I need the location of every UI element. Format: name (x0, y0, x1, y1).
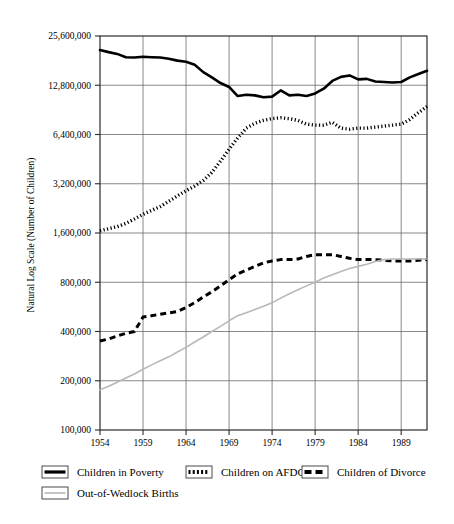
series-line-3 (100, 259, 427, 390)
legend-item: Children of Divorce (302, 466, 426, 478)
line-chart: Natural Log Scale (Number of Children) 2… (0, 0, 454, 524)
series-line-2 (100, 255, 427, 341)
x-tick-label: 1984 (349, 438, 368, 448)
chart-legend: Children in PovertyChildren on AFDCChild… (42, 466, 426, 499)
x-tick-label: 1979 (306, 438, 325, 448)
x-tick-label: 1989 (392, 438, 411, 448)
legend-label: Children of Divorce (337, 466, 426, 478)
y-tick-label: 25,600,000 (48, 31, 91, 41)
y-tick-labels: 25,600,00012,800,0006,400,0003,200,0001,… (48, 31, 100, 435)
legend-item: Out-of-Wedlock Births (42, 487, 178, 499)
chart-figure: Natural Log Scale (Number of Children) 2… (0, 0, 454, 524)
y-tick-label: 100,000 (60, 425, 91, 435)
y-tick-label: 400,000 (60, 327, 91, 337)
y-tick-label: 200,000 (60, 376, 91, 386)
legend-label: Children in Poverty (77, 466, 164, 478)
x-tick-labels: 19541959196419691974197919841989 (91, 430, 411, 448)
x-tick-label: 1969 (220, 438, 239, 448)
y-tick-label: 3,200,000 (53, 179, 91, 189)
y-gridlines (100, 85, 427, 381)
legend-item: Children in Poverty (42, 466, 164, 478)
x-tick-label: 1964 (177, 438, 196, 448)
series-line-0 (100, 50, 427, 97)
x-tick-label: 1974 (263, 438, 282, 448)
legend-item: Children on AFDC (186, 466, 305, 478)
legend-label: Children on AFDC (221, 466, 305, 478)
x-tick-label: 1954 (91, 438, 110, 448)
y-tick-label: 800,000 (60, 278, 91, 288)
x-tick-label: 1959 (134, 438, 153, 448)
y-tick-label: 6,400,000 (53, 130, 91, 140)
y-tick-label: 1,600,000 (53, 228, 91, 238)
y-tick-label: 12,800,000 (48, 81, 91, 91)
series-line-1 (100, 106, 427, 230)
legend-label: Out-of-Wedlock Births (77, 487, 178, 499)
series-layer (100, 50, 427, 390)
y-axis-title: Natural Log Scale (Number of Children) (26, 158, 37, 313)
